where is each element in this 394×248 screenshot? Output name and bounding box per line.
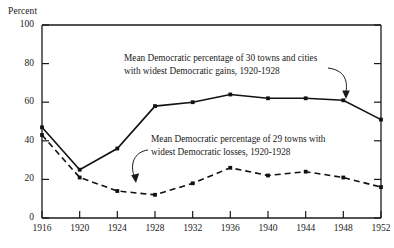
data-point-marker xyxy=(191,181,195,185)
data-point-marker xyxy=(191,100,195,104)
data-point-marker xyxy=(40,125,44,129)
data-point-marker xyxy=(40,133,44,137)
chart-container: Percent 020406080100 1916192019241928193… xyxy=(0,0,394,248)
x-tick-label: 1952 xyxy=(361,223,394,233)
x-tick-label: 1948 xyxy=(323,223,363,233)
data-point-marker xyxy=(379,185,383,189)
x-axis-ticks xyxy=(42,211,381,218)
y-tick-label: 80 xyxy=(8,58,34,68)
x-tick-label: 1928 xyxy=(135,223,175,233)
data-point-marker xyxy=(304,170,308,174)
y-tick-label: 40 xyxy=(8,135,34,145)
x-tick-label: 1936 xyxy=(210,223,250,233)
x-tick-label: 1924 xyxy=(97,223,137,233)
data-point-marker xyxy=(379,118,383,122)
annotation-gains-line-2: with widest Democratic gains, 1920-1928 xyxy=(124,65,317,78)
y-axis-title: Percent xyxy=(8,6,37,16)
data-point-marker xyxy=(228,93,232,97)
y-tick-label: 60 xyxy=(8,96,34,106)
data-point-marker xyxy=(304,96,308,100)
y-tick-label: 0 xyxy=(8,212,34,222)
x-tick-label: 1920 xyxy=(60,223,100,233)
data-point-marker xyxy=(115,189,119,193)
x-tick-label: 1932 xyxy=(173,223,213,233)
data-point-marker xyxy=(266,174,270,178)
annotation-losses-line-1: Mean Democratic percentage of 29 towns w… xyxy=(151,133,326,146)
data-point-marker xyxy=(228,166,232,170)
data-point-marker xyxy=(153,104,157,108)
data-point-marker xyxy=(341,176,345,180)
y-tick-label: 100 xyxy=(8,19,34,29)
data-point-marker xyxy=(78,176,82,180)
annotation-gains-line-1: Mean Democratic percentage of 30 towns a… xyxy=(124,52,317,65)
data-point-marker xyxy=(341,98,345,102)
annotation-leaders xyxy=(131,68,350,183)
data-point-marker xyxy=(78,168,82,172)
data-point-marker xyxy=(266,96,270,100)
x-tick-label: 1944 xyxy=(286,223,326,233)
y-tick-label: 20 xyxy=(8,173,34,183)
line-chart-plot xyxy=(0,0,394,248)
x-tick-label: 1940 xyxy=(248,223,288,233)
data-point-marker xyxy=(115,147,119,151)
annotation-gains: Mean Democratic percentage of 30 towns a… xyxy=(124,52,317,77)
data-point-marker xyxy=(153,193,157,197)
annotation-losses: Mean Democratic percentage of 29 towns w… xyxy=(151,133,326,158)
annotation-losses-line-2: widest Democratic losses, 1920-1928 xyxy=(151,146,326,159)
x-tick-label: 1916 xyxy=(22,223,62,233)
